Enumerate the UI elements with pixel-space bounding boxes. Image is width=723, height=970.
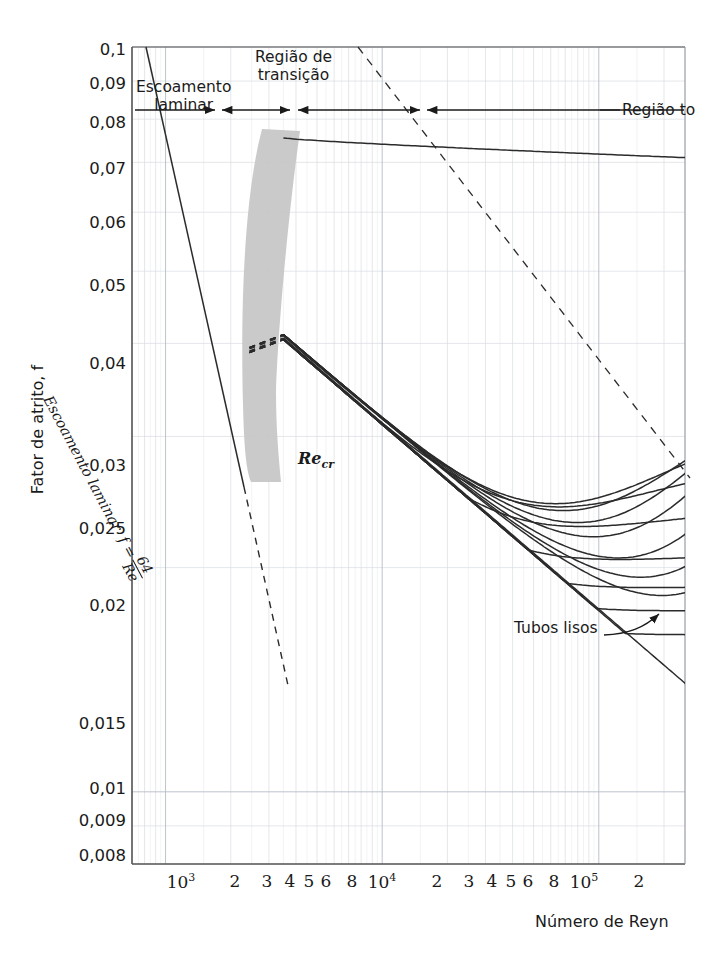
friction-factor-curves <box>249 138 688 687</box>
relative-roughness-curve-12 <box>283 340 688 611</box>
x-tick-2e5: 2 <box>634 871 645 891</box>
fully-turbulent-region-annotation: Região to <box>622 101 695 119</box>
laminar-dashed-extension <box>244 487 289 690</box>
relative-roughness-curve-9 <box>283 340 688 527</box>
axis-frame <box>132 47 685 864</box>
x-tick-2e4: 2 <box>432 871 443 891</box>
top-roughness-curve <box>283 138 688 158</box>
relative-roughness-curve-1 <box>283 335 688 596</box>
critical-reynolds-annotation: Recr <box>298 449 334 471</box>
x-tick-8e4: 8 <box>549 871 560 891</box>
relative-roughness-curve-2 <box>283 335 688 578</box>
x-tick-6e4: 6 <box>523 871 534 891</box>
laminar-flow-line1: Escoamento <box>136 78 231 96</box>
x-tick-6e3: 6 <box>321 871 332 891</box>
x-tick-5e3: 5 <box>304 871 315 891</box>
major-gridlines <box>132 47 685 864</box>
relative-roughness-curve-6 <box>283 335 688 511</box>
x-tick-1e3: 103 <box>167 871 196 892</box>
x-tick-4e4: 4 <box>487 871 498 891</box>
minor-gridlines <box>132 47 685 864</box>
transition-region-line1: Região de <box>236 48 351 66</box>
transition-band-shape <box>242 129 300 482</box>
x-tick-3e4: 3 <box>464 871 475 891</box>
x-tick-3e3: 3 <box>262 871 273 891</box>
relative-roughness-curve-11 <box>283 340 688 588</box>
x-tick-1e4: 104 <box>368 871 397 892</box>
x-tick-2e3: 2 <box>230 871 241 891</box>
relative-roughness-curve-10 <box>283 340 688 560</box>
x-tick-5e4: 5 <box>506 871 517 891</box>
relative-roughness-curve-8 <box>283 338 688 507</box>
moody-diagram: 0,1 0,09 0,08 0,07 0,06 0,05 0,04 0,03 0… <box>0 0 723 970</box>
transition-region-annotation: Região de Região to transição <box>236 48 351 85</box>
laminar-flow-annotation: Escoamento laminar <box>136 78 231 115</box>
x-tick-1e5: 105 <box>570 871 599 892</box>
smooth-pipe-curve <box>283 338 688 686</box>
transition-region-line2: transição <box>236 66 351 84</box>
x-tick-4e3: 4 <box>285 871 296 891</box>
smooth-pipes-leader-arrow <box>604 614 659 635</box>
x-tick-8e3: 8 <box>347 871 358 891</box>
laminar-flow-line2: laminar <box>136 96 231 114</box>
relative-roughness-curve-7 <box>283 336 688 504</box>
smooth-pipes-annotation: Tubos lisos <box>514 619 598 637</box>
